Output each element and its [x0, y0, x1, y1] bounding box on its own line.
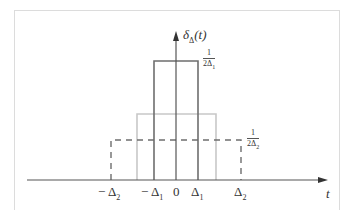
short-height-numerator: 1 — [247, 129, 259, 139]
tick-sub: 2 — [116, 193, 120, 202]
x-axis-label: t — [326, 187, 330, 200]
tall-height-label: 1 2Δ1 — [203, 49, 215, 70]
tick-sign: − — [141, 184, 148, 199]
tick-sign: − — [98, 184, 105, 199]
pulse-diagram — [0, 0, 348, 210]
tick-sub: 1 — [159, 193, 163, 202]
tick-neg-delta1: − Δ1 — [141, 185, 163, 202]
tall-height-denominator: 2Δ1 — [203, 59, 215, 70]
tick-sub: 1 — [199, 193, 203, 202]
tick-delta2: Δ2 — [234, 185, 246, 202]
tick-base: 0 — [173, 184, 180, 199]
tall-den-sub: 1 — [212, 64, 215, 70]
tick-neg-delta2: − Δ2 — [98, 185, 120, 202]
t-axis-arrow-icon — [318, 177, 328, 183]
y-axis-arrow-icon — [173, 31, 179, 41]
tall-den-base: 2Δ — [203, 59, 212, 68]
short-den-base: 2Δ — [247, 139, 256, 148]
y-axis-label: δΔ(t) — [183, 28, 206, 45]
y-label-arg: (t) — [194, 27, 206, 42]
short-den-sub: 2 — [256, 144, 259, 150]
short-height-label: 1 2Δ2 — [247, 129, 259, 150]
tick-sub: 2 — [242, 193, 246, 202]
tall-height-numerator: 1 — [203, 49, 215, 59]
tick-delta1: Δ1 — [191, 185, 203, 202]
tick-zero: 0 — [173, 185, 180, 198]
short-height-denominator: 2Δ2 — [247, 139, 259, 150]
